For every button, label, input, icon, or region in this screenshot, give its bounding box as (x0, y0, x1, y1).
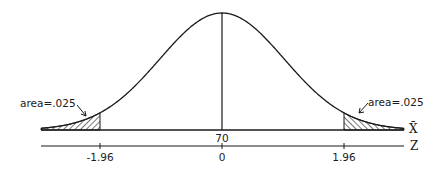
xbar-axis-label: X̄ (409, 121, 418, 136)
z-tick-label-neg196: -1.96 (86, 151, 113, 163)
xbar-center-tick-label: 70 (215, 132, 228, 144)
normal-distribution-figure: X̄ 70 Z -1.96 0 1.96 area=.025 area=.025 (0, 0, 444, 172)
z-tick-label-196: 1.96 (332, 151, 356, 163)
right-tail-area-label: area=.025 (368, 96, 424, 108)
right-tail-arrow (359, 103, 368, 113)
left-tail-area-label: area=.025 (20, 97, 76, 109)
z-tick-label-0: 0 (219, 151, 226, 163)
z-axis-label: Z (410, 139, 418, 153)
